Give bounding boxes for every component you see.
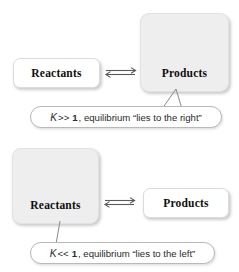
k-symbol-top: K [50, 112, 57, 123]
equilibrium-double-arrow-icon-top [104, 64, 138, 82]
caption-bubble-right-shifted: K >> 1 , equilibrium “lies to the right” [30, 106, 222, 128]
products-box-top: Products [140, 13, 229, 92]
products-label-top: Products [141, 67, 228, 79]
k-value-bottom: 1 [72, 248, 77, 259]
reactants-box-bottom: Reactants [12, 148, 99, 224]
products-box-bottom: Products [143, 188, 229, 218]
equilibrium-figure: Reactants Products K >> 1 , equilibrium … [0, 0, 239, 272]
products-label-bottom: Products [163, 197, 208, 209]
reactants-label-bottom: Reactants [13, 199, 98, 211]
reactants-label-top: Reactants [31, 67, 81, 79]
k-value-top: 1 [72, 112, 77, 123]
k-symbol-bottom: K [50, 248, 57, 259]
caption-text-top: , equilibrium “lies to the right” [79, 112, 202, 123]
k-comparison-top: >> [58, 112, 69, 123]
reactants-box-top: Reactants [13, 58, 100, 88]
caption-text-bottom: , equilibrium “lies to the left” [78, 248, 195, 259]
k-comparison-bottom: << [57, 248, 68, 259]
caption-bubble-left-shifted: K << 1 , equilibrium “lies to the left” [30, 242, 215, 264]
equilibrium-double-arrow-icon-bottom [103, 194, 137, 212]
